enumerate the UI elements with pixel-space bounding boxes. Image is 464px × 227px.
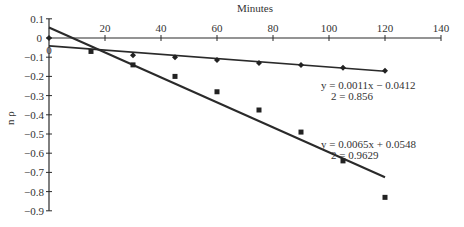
marker-diamond: [46, 35, 52, 41]
y-tick-label: −0.8: [24, 186, 44, 198]
chart: 0.1−0.1−0.2−0.3−0.4−0.5−0.6−0.7−0.8−0.92…: [0, 0, 464, 227]
x-tick-label: 100: [321, 22, 338, 34]
y-tick-label: −0.6: [24, 147, 44, 159]
y-tick-label: −0.3: [24, 90, 44, 102]
trendline-equations: y = 0.0011x − 0.0412 2 = 0.856 y = 0.006…: [321, 79, 416, 161]
y-tick-label: −0.2: [24, 70, 44, 82]
x-axis-title: Minutes: [237, 2, 273, 14]
marker-square: [215, 89, 220, 94]
axes: 0.1−0.1−0.2−0.3−0.4−0.5−0.6−0.7−0.8−0.92…: [24, 13, 450, 217]
marker-square: [173, 74, 178, 79]
y-tick-label: −0.4: [24, 109, 44, 121]
x-tick-label: 40: [156, 22, 168, 34]
y-axis-title: n ρ: [4, 111, 16, 125]
labels: Minutes n ρ 0 0: [4, 2, 273, 125]
x-tick-label: 20: [100, 22, 112, 34]
y-tick-label: −0.7: [24, 166, 44, 178]
marker-square: [131, 62, 136, 67]
y-tick-label: −0.1: [24, 51, 44, 63]
y-tick-label: 0.1: [30, 13, 44, 25]
marker-diamond: [340, 65, 346, 71]
y-tick-label: −0.5: [24, 128, 44, 140]
x-tick-label: 120: [377, 22, 394, 34]
x-tick-label: 80: [268, 22, 280, 34]
origin-label-x: 0: [46, 44, 52, 56]
marker-diamond: [298, 62, 304, 68]
data-markers: [46, 35, 388, 200]
origin-label-y: 0: [37, 32, 43, 44]
marker-square: [383, 195, 388, 200]
x-tick-label: 140: [433, 22, 450, 34]
y-tick-label: −0.9: [24, 205, 44, 217]
marker-square: [257, 108, 262, 113]
r2-series-1: 2 = 0.856: [331, 90, 373, 102]
marker-diamond: [382, 68, 388, 74]
marker-square: [299, 130, 304, 135]
x-tick-label: 60: [212, 22, 224, 34]
marker-square: [89, 49, 94, 54]
r2-series-2: 2 = 0.9629: [331, 149, 379, 161]
